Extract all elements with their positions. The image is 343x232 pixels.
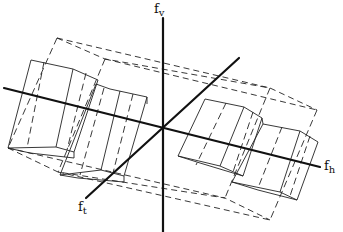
fv-label-sub: v: [159, 7, 165, 18]
fv-axis-label: fv: [154, 2, 164, 18]
ft-axis-label: ft: [78, 200, 87, 216]
frequency-space-diagram: [0, 0, 343, 232]
ft-label-sub: t: [83, 205, 87, 216]
fh-label-sub: h: [329, 164, 335, 175]
fh-axis-label: fh: [324, 159, 335, 175]
